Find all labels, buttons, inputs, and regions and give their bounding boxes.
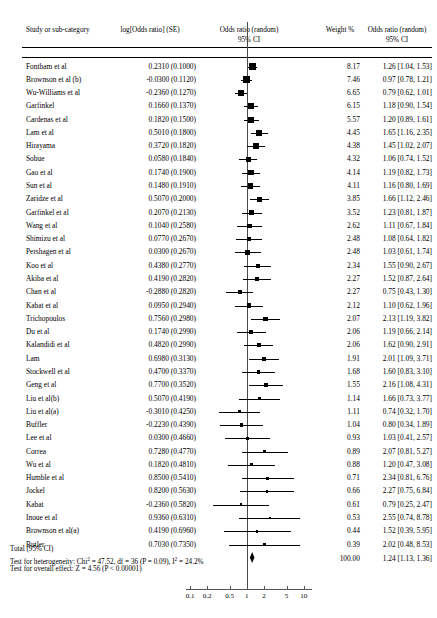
header-study: Study or sub-category: [26, 26, 89, 34]
or-ci-value: 2.55 [0.74, 8.78]: [364, 513, 432, 522]
logor-se: 0.1660 (0.1370): [100, 101, 196, 110]
logor-se: 0.0950 (0.2940): [100, 301, 196, 310]
logor-se: -0.2360 (0.1270): [100, 88, 196, 97]
axis-tick: [207, 586, 208, 589]
study-name: Hirayama: [26, 141, 55, 150]
or-ci-value: 1.52 [0.87, 2.64]: [364, 274, 432, 283]
or-ci-value: 2.01 [1.09, 3.71]: [364, 354, 432, 363]
or-ci-value: 1.03 [0.61, 1.74]: [364, 247, 432, 256]
or-ci-value: 0.79 [0.25, 2.47]: [364, 500, 432, 509]
or-ci-value: 1.20 [0.89, 1.61]: [364, 115, 432, 124]
logor-se: 0.1480 (0.1910): [100, 181, 196, 190]
effect-marker: [253, 143, 258, 148]
effect-marker: [263, 317, 267, 321]
weight-value: 0.44: [318, 526, 360, 535]
weight-value: 0.71: [318, 473, 360, 482]
logor-se: 0.4700 (0.3370): [100, 367, 196, 376]
weight-value: 0.93: [318, 433, 360, 442]
weight-value: 0.61: [318, 500, 360, 509]
weight-value: 2.34: [318, 261, 360, 270]
effect-marker: [238, 410, 241, 413]
effect-marker: [245, 250, 249, 254]
study-name: Shimizu et al: [26, 234, 65, 243]
logor-se: 0.7030 (0.7350): [100, 540, 196, 549]
effect-marker: [264, 383, 268, 387]
study-name: Liu et al(a): [26, 407, 59, 416]
header-or-line1: Odds ratio (random): [360, 26, 434, 34]
logor-se: -0.3010 (0.4250): [100, 407, 196, 416]
weight-value: 2.27: [318, 274, 360, 283]
logor-se: 0.5070 (0.4190): [100, 394, 196, 403]
weight-value: 8.17: [318, 62, 360, 71]
logor-se: 0.6980 (0.3130): [100, 354, 196, 363]
study-name: Akiba et al: [26, 274, 58, 283]
logor-se: 0.0300 (0.4660): [100, 433, 196, 442]
study-name: Wang et al: [26, 221, 57, 230]
or-ci-value: 2.16 [1.08, 4.31]: [364, 380, 432, 389]
or-ci-value: 1.55 [0.90, 2.67]: [364, 261, 432, 270]
logor-se: 0.1820 (0.1500): [100, 115, 196, 124]
or-ci-value: 1.66 [1.12, 2.46]: [364, 194, 432, 203]
study-name: Pershagen et al: [26, 247, 71, 256]
weight-value: 7.46: [318, 75, 360, 84]
effect-marker: [249, 330, 253, 334]
logor-se: -0.2360 (0.5820): [100, 500, 196, 509]
header-rule-top: [22, 47, 432, 48]
effect-marker: [257, 343, 261, 347]
logor-se: 0.0300 (0.2670): [100, 247, 196, 256]
or-ci-value: 2.13 [1.19, 3.82]: [364, 314, 432, 323]
effect-marker: [248, 103, 254, 109]
axis-tick-label: 10: [292, 592, 316, 600]
or-ci-value: 0.79 [0.62, 1.01]: [364, 88, 432, 97]
study-name: Lee et al: [26, 433, 51, 442]
total-or-ci: 1.24 [1.13, 1.36]: [364, 554, 432, 563]
effect-marker: [247, 224, 251, 228]
effect-marker: [263, 543, 266, 546]
study-name: Gao et al: [26, 168, 53, 177]
weight-value: 0.53: [318, 513, 360, 522]
effect-marker: [249, 210, 254, 215]
weight-value: 2.12: [318, 301, 360, 310]
header-weight: Weight %: [318, 26, 362, 34]
or-ci-value: 1.19 [0.82, 1.73]: [364, 168, 432, 177]
weight-value: 0.66: [318, 486, 360, 495]
or-ci-value: 1.03 [0.41, 2.57]: [364, 433, 432, 442]
axis-tick: [230, 586, 231, 589]
or-ci-value: 1.23 [0.81, 1.87]: [364, 208, 432, 217]
effect-marker: [240, 503, 243, 506]
effect-marker: [269, 517, 272, 520]
study-name: Trichopoulos: [26, 314, 65, 323]
logor-se: 0.1820 (0.4810): [100, 460, 196, 469]
logor-se: 0.7280 (0.4770): [100, 447, 196, 456]
study-name: Chan et al: [26, 287, 56, 296]
weight-value: 3.85: [318, 194, 360, 203]
overall-effect-stats: Test for overall effect: Z = 4.56 (P < 0…: [10, 565, 142, 575]
study-name: Geng et al: [26, 380, 56, 389]
weight-value: 2.48: [318, 247, 360, 256]
or-ci-value: 2.02 [0.48, 8.53]: [364, 540, 432, 549]
header-or-line2: 95% CI: [360, 36, 434, 44]
or-ci-value: 1.52 [0.39, 5.95]: [364, 526, 432, 535]
study-name: Garfinkel et al: [26, 208, 69, 217]
logor-se: 0.7700 (0.3520): [100, 380, 196, 389]
or-ci-value: 1.06 [0.74, 1.52]: [364, 154, 432, 163]
effect-marker: [246, 437, 249, 440]
effect-marker: [238, 90, 245, 97]
logor-se: -0.2230 (0.4390): [100, 420, 196, 429]
weight-value: 1.04: [318, 420, 360, 429]
or-ci-value: 1.26 [1.04, 1.53]: [364, 62, 432, 71]
study-name: Liu et al(b): [26, 394, 59, 403]
axis-tick: [247, 586, 248, 589]
logor-se: 0.4820 (0.2990): [100, 340, 196, 349]
effect-marker: [263, 450, 266, 453]
weight-value: 1.55: [318, 380, 360, 389]
effect-marker: [257, 197, 262, 202]
logor-se: 0.1740 (0.2990): [100, 327, 196, 336]
weight-value: 5.57: [318, 115, 360, 124]
study-name: Kalandidi et al: [26, 340, 70, 349]
effect-marker: [256, 264, 260, 268]
or-ci-value: 0.97 [0.78, 1.21]: [364, 75, 432, 84]
or-ci-value: 2.34 [0.81, 6.76]: [364, 473, 432, 482]
axis-tick-label: 2: [252, 592, 276, 600]
logor-se: 0.2070 (0.2130): [100, 208, 196, 217]
